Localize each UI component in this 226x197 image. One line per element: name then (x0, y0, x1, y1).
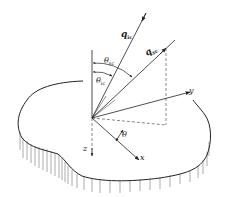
projection-horizontal (92, 118, 166, 125)
label-theta: θ (122, 130, 127, 139)
label-theta-sc: θsc (104, 56, 114, 66)
surface-hatching (20, 132, 209, 193)
scattering-diagram: qic qsc θsc θic θ x y z (0, 0, 226, 197)
label-y-axis: y (188, 86, 194, 95)
label-z-axis: z (82, 144, 88, 153)
q-incident-line (92, 13, 146, 118)
q-incident-arrow (142, 13, 146, 21)
y-axis (92, 92, 190, 118)
label-x-axis: x (140, 153, 145, 162)
label-q-scattered: qsc (143, 43, 159, 59)
label-q-incident: qic (121, 29, 132, 40)
label-theta-ic: θic (96, 76, 105, 86)
q-scattered-arrow (160, 48, 166, 54)
surface-plane (18, 81, 210, 193)
x-axis (92, 118, 139, 160)
